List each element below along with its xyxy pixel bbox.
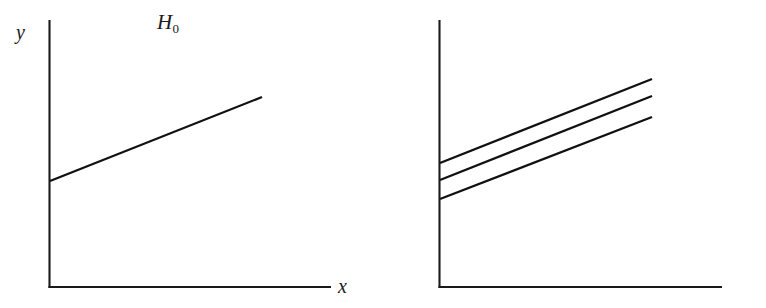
x-axis-label-null: x bbox=[338, 276, 347, 296]
panel-title-null-subscript: 0 bbox=[173, 21, 180, 36]
plot-area-alternative bbox=[383, 0, 766, 308]
panel-alternative-hypothesis: y x Ha bbox=[383, 0, 766, 308]
panel-title-null: H0 bbox=[157, 12, 179, 33]
figure-canvas: y x H0 y x Ha bbox=[0, 0, 766, 308]
panel-null-hypothesis: y x H0 bbox=[0, 0, 383, 308]
panel-title-null-base: H bbox=[157, 10, 172, 34]
regression-line-lower bbox=[440, 117, 652, 199]
regression-line-middle bbox=[440, 96, 652, 180]
regression-line-common bbox=[50, 97, 262, 181]
y-axis-label-null: y bbox=[16, 22, 25, 42]
regression-line-upper bbox=[440, 79, 652, 163]
plot-area-null bbox=[0, 0, 383, 308]
